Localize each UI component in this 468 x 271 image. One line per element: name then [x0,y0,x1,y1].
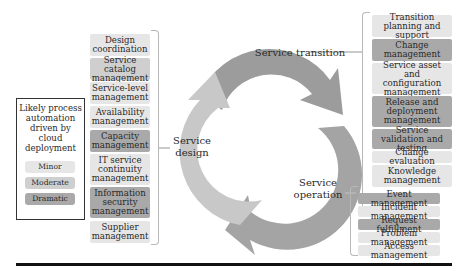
operation-item: Access management [358,245,440,256]
transition-item: Knowledge management [372,165,452,187]
bottom-rule [16,263,452,266]
service-transition-bracket [362,12,370,212]
legend-moderate: Moderate [25,177,75,189]
transition-item: Change evaluation [372,151,452,163]
design-item: Capacity management [90,130,150,152]
stage-label-service-design: Service design [170,135,214,159]
service-operation-bracket [350,186,358,256]
design-item: Design coordination [90,34,150,56]
transition-item: Service validation and testing [372,129,452,149]
transition-item: Release and deployment management [372,96,452,127]
design-item: Service-level management [90,82,150,104]
legend-dramatic: Dramatic [25,193,75,205]
design-item: IT service continuity management [90,154,150,185]
design-item: Availability management [90,106,150,128]
stage-label-service-transition: Service transition [245,47,355,59]
design-item: Supplier management [90,221,150,243]
transition-item: Service asset and configuration manageme… [372,63,452,94]
legend-title: Likely process automation driven by clou… [17,103,84,153]
stage-label-service-operation: Service operation [292,177,344,201]
transition-item: Transition planning and support [372,15,452,37]
transition-item: Change management [372,39,452,61]
legend: Likely process automation driven by clou… [16,98,85,220]
legend-minor: Minor [25,161,75,173]
design-item: Information security management [90,187,150,218]
design-item: Service catalog management [90,58,150,80]
service-design-bracket [151,30,159,245]
